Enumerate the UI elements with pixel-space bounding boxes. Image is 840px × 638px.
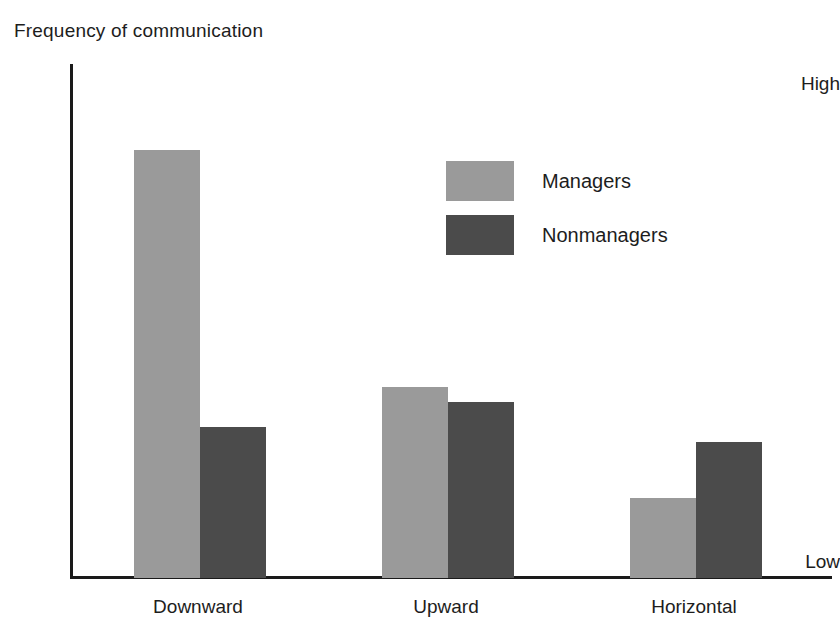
bar-group-horizontal [630, 75, 818, 578]
bar-upward-nonmanagers [448, 402, 514, 578]
bar-group-downward [134, 75, 322, 578]
legend-swatch-managers-icon [446, 161, 514, 201]
category-label-upward: Upward [336, 596, 556, 618]
category-label-horizontal: Horizontal [584, 596, 804, 618]
legend-item-nonmanagers: Nonmanagers [446, 214, 668, 256]
chart-title: Frequency of communication [14, 20, 263, 42]
legend-item-managers: Managers [446, 160, 668, 202]
plot-area [73, 75, 832, 578]
bar-upward-managers [382, 387, 448, 578]
legend-swatch-nonmanagers-icon [446, 215, 514, 255]
bar-horizontal-nonmanagers [696, 442, 762, 578]
bar-group-upward [382, 75, 570, 578]
category-label-downward: Downward [88, 596, 308, 618]
legend-label-nonmanagers: Nonmanagers [542, 224, 668, 247]
chart-legend: Managers Nonmanagers [446, 160, 668, 268]
bar-chart-figure: Frequency of communication High Low Down… [0, 0, 840, 638]
bar-horizontal-managers [630, 498, 696, 578]
bar-downward-managers [134, 150, 200, 578]
legend-label-managers: Managers [542, 170, 631, 193]
bar-downward-nonmanagers [200, 427, 266, 578]
